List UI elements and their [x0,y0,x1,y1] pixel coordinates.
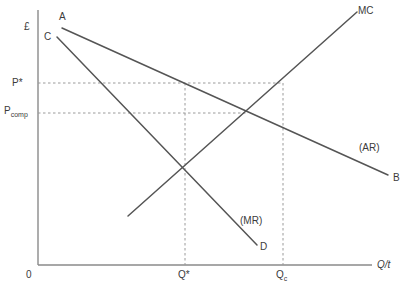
price-label-monopoly: P* [12,78,23,88]
curve-label-ar: (AR) [359,143,380,153]
price-label-competitive: Pcomp [4,106,28,118]
curve-marginal-cost [128,12,357,216]
curve-label-mr: (MR) [240,216,262,226]
point-label-a: A [59,12,66,22]
curve-label-mc: MC [358,6,374,16]
origin-label: 0 [26,270,32,280]
point-label-b: B [393,173,400,183]
point-label-c: C [44,32,51,42]
price-label-competitive-sub: comp [11,111,28,118]
y-axis-label: £ [24,22,30,32]
economics-diagram: £ Q/t 0 A C B D MC (AR) (MR) P* Pcomp Q*… [0,0,413,296]
curve-average-revenue [62,28,388,175]
quantity-label-competitive: Qc [276,270,287,282]
x-axis-label: Q/t [377,260,390,270]
quantity-label-monopoly-main: Q [178,269,186,280]
quantity-label-monopoly-sup: * [186,269,190,280]
quantity-label-monopoly: Q* [178,270,190,280]
point-label-d: D [260,242,267,252]
price-label-competitive-main: P [4,105,11,116]
diagram-canvas [0,0,413,296]
curve-marginal-revenue [57,37,257,245]
quantity-label-competitive-sub: c [284,275,288,282]
quantity-label-competitive-main: Q [276,269,284,280]
